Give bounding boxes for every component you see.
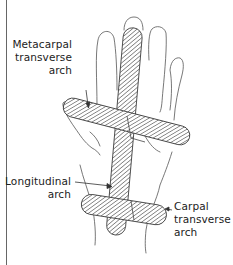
label-line: Longitudinal bbox=[0, 175, 71, 188]
label-line: arch bbox=[0, 64, 72, 77]
label-line: transverse bbox=[174, 213, 233, 226]
longitudinal-arch-label: Longitudinal arch bbox=[0, 175, 71, 201]
label-line: arch bbox=[0, 188, 71, 201]
label-line: Metacarpal bbox=[0, 38, 72, 51]
label-line: Carpal bbox=[174, 200, 233, 213]
label-line: transverse bbox=[0, 51, 72, 64]
metacarpal-transverse-arch-label: Metacarpal transverse arch bbox=[0, 38, 72, 77]
carpal-transverse-arch-label: Carpal transverse arch bbox=[174, 200, 233, 239]
label-line: arch bbox=[174, 226, 233, 239]
